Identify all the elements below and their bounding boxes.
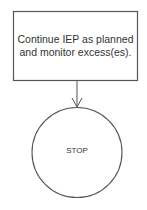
process-box-label: Continue IEP as planned and monitor exce…	[14, 12, 137, 80]
stop-label: STOP	[32, 146, 122, 155]
